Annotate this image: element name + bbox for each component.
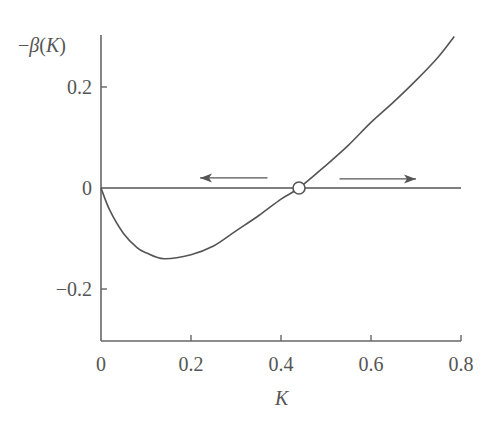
right-flow-arrow — [340, 174, 417, 183]
left-flow-arrow — [200, 173, 268, 182]
x-tick-label: 0.2 — [179, 353, 204, 375]
x-tick-label: 0 — [96, 353, 106, 375]
x-tick-label: 0.4 — [269, 353, 294, 375]
y-axis-title-beta: β — [28, 34, 39, 57]
fixed-point-marker — [293, 182, 305, 194]
x-axis-title: K — [274, 387, 290, 409]
series — [101, 37, 461, 259]
beta-curve — [101, 37, 454, 259]
x-tick-label: 0.6 — [359, 353, 384, 375]
x-tick-label: 0.8 — [449, 353, 474, 375]
y-tick-label: −0.2 — [56, 278, 92, 300]
y-axis-title: −β(K) — [18, 34, 66, 57]
y-tick-label: 0 — [82, 177, 92, 199]
annotations — [200, 173, 416, 194]
y-tick-label: 0.2 — [67, 76, 92, 98]
chart: 00.20.40.60.8−0.200.2 −β(K) K — [0, 0, 496, 421]
y-axis-title-close: ) — [59, 34, 66, 57]
y-axis-title-minus: − — [18, 34, 29, 56]
